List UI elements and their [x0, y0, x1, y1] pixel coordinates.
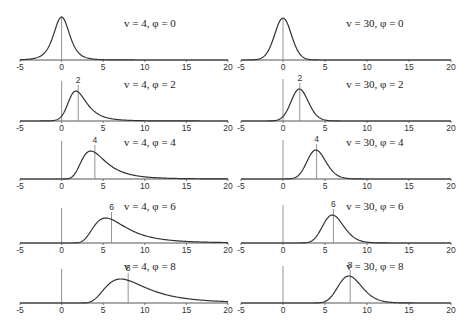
- x-tick-label: -5: [237, 123, 245, 133]
- density-curve: [241, 276, 451, 303]
- x-tick-label: 15: [182, 123, 192, 133]
- density-curve: [241, 150, 451, 179]
- x-tick-label: 5: [101, 305, 106, 315]
- panel-v30-phi0: -505101520v = 30, φ = 0: [237, 17, 456, 72]
- x-tick-label: 10: [140, 123, 150, 133]
- phi-marker-label: 6: [109, 202, 114, 212]
- x-tick-label: 10: [362, 181, 372, 191]
- panel-v4-phi6: -5051015206v = 4, φ = 6: [16, 200, 233, 255]
- x-tick-label: 15: [404, 245, 414, 255]
- panel-label: v = 4, φ = 0: [124, 17, 176, 29]
- x-tick-label: 20: [223, 305, 233, 315]
- density-curve: [20, 91, 228, 121]
- x-tick-label: 15: [182, 305, 192, 315]
- x-tick-label: 5: [101, 62, 106, 72]
- x-tick-label: 20: [223, 123, 233, 133]
- x-tick-label: -5: [237, 181, 245, 191]
- x-tick-label: 20: [446, 305, 456, 315]
- panel-v4-phi8: -5051015208v = 4, φ = 8: [16, 260, 233, 315]
- x-tick-label: 5: [323, 305, 328, 315]
- x-tick-label: 20: [223, 245, 233, 255]
- panel-label: v = 4, φ = 8: [124, 260, 176, 272]
- panel-v4-phi4: -5051015204v = 4, φ = 4: [16, 135, 233, 191]
- x-tick-label: 15: [404, 62, 414, 72]
- x-tick-label: 15: [182, 62, 192, 72]
- panel-v4-phi2: -5051015202v = 4, φ = 2: [16, 75, 233, 133]
- x-tick-label: 10: [140, 181, 150, 191]
- x-tick-label: 10: [362, 245, 372, 255]
- panel-label: v = 30, φ = 0: [346, 17, 404, 29]
- panel-label: v = 30, φ = 2: [346, 78, 403, 90]
- x-tick-label: 0: [281, 305, 286, 315]
- x-tick-label: 20: [446, 181, 456, 191]
- density-curve: [20, 151, 228, 179]
- x-tick-label: -5: [16, 181, 24, 191]
- x-tick-label: 20: [446, 62, 456, 72]
- panel-v4-phi0: -505101520v = 4, φ = 0: [16, 17, 233, 72]
- x-tick-label: 15: [404, 181, 414, 191]
- panel-v30-phi6: -5051015206v = 30, φ = 6: [237, 199, 456, 255]
- x-tick-label: 10: [362, 305, 372, 315]
- phi-marker-label: 2: [297, 73, 302, 83]
- x-tick-label: 0: [59, 181, 64, 191]
- panel-v30-phi8: -5051015208v = 30, φ = 8: [237, 260, 456, 315]
- x-tick-label: 0: [59, 245, 64, 255]
- phi-marker-label: 2: [76, 75, 81, 85]
- x-tick-label: 0: [281, 245, 286, 255]
- x-tick-label: 15: [182, 181, 192, 191]
- x-tick-label: 15: [404, 305, 414, 315]
- x-tick-label: 5: [323, 62, 328, 72]
- phi-marker-label: 4: [314, 134, 319, 144]
- panel-label: v = 4, φ = 4: [124, 136, 176, 148]
- x-tick-label: 10: [362, 123, 372, 133]
- x-tick-label: 10: [140, 305, 150, 315]
- x-tick-label: 5: [323, 181, 328, 191]
- x-tick-label: -5: [237, 245, 245, 255]
- phi-marker-label: 6: [331, 199, 336, 209]
- x-tick-label: 0: [59, 62, 64, 72]
- panel-label: v = 30, φ = 8: [346, 260, 404, 272]
- x-tick-label: 10: [362, 62, 372, 72]
- x-tick-label: -5: [16, 62, 24, 72]
- x-tick-label: 20: [446, 123, 456, 133]
- x-tick-label: -5: [237, 305, 245, 315]
- x-tick-label: 0: [281, 181, 286, 191]
- x-tick-label: 5: [323, 245, 328, 255]
- panel-v30-phi2: -5051015202v = 30, φ = 2: [237, 73, 456, 133]
- density-curve: [20, 279, 228, 303]
- noncentral-t-figure: -505101520v = 4, φ = 0-505101520v = 30, …: [0, 0, 472, 336]
- panel-v30-phi4: -5051015204v = 30, φ = 4: [237, 134, 456, 191]
- x-tick-label: -5: [237, 62, 245, 72]
- x-tick-label: -5: [16, 305, 24, 315]
- x-tick-label: -5: [16, 123, 24, 133]
- panel-label: v = 30, φ = 4: [346, 136, 404, 148]
- x-tick-label: 0: [59, 305, 64, 315]
- x-tick-label: -5: [16, 245, 24, 255]
- density-curve: [241, 89, 451, 121]
- x-tick-label: 0: [59, 123, 64, 133]
- density-curve: [20, 218, 228, 243]
- x-tick-label: 10: [140, 62, 150, 72]
- panel-label: v = 4, φ = 2: [124, 78, 176, 90]
- x-tick-label: 20: [446, 245, 456, 255]
- x-tick-label: 5: [323, 123, 328, 133]
- panel-label: v = 30, φ = 6: [346, 200, 404, 212]
- chart-canvas: -505101520v = 4, φ = 0-505101520v = 30, …: [0, 0, 472, 336]
- x-tick-label: 10: [140, 245, 150, 255]
- x-tick-label: 20: [223, 181, 233, 191]
- x-tick-label: 5: [101, 245, 106, 255]
- panel-label: v = 4, φ = 6: [124, 200, 176, 212]
- phi-marker-label: 4: [93, 135, 98, 145]
- x-tick-label: 0: [281, 123, 286, 133]
- x-tick-label: 5: [101, 123, 106, 133]
- x-tick-label: 5: [101, 181, 106, 191]
- x-tick-label: 15: [182, 245, 192, 255]
- density-curve: [241, 215, 451, 243]
- x-tick-label: 20: [223, 62, 233, 72]
- x-tick-label: 0: [281, 62, 286, 72]
- x-tick-label: 15: [404, 123, 414, 133]
